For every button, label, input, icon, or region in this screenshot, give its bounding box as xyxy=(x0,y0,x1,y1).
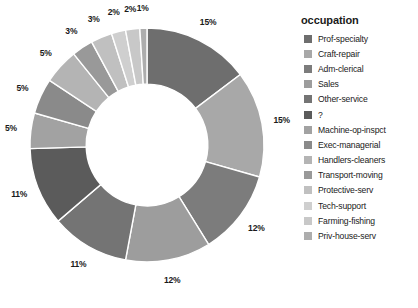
legend-item[interactable]: Handlers-cleaners xyxy=(301,153,418,168)
legend-color-swatch-icon xyxy=(304,65,312,73)
slice-percentage-label: 12% xyxy=(248,223,264,233)
legend-item-label: Adm-clerical xyxy=(318,64,363,74)
chart-plot-area: 15%15%12%12%11%11%5%5%5%3%3%2%2%1% xyxy=(0,0,290,308)
legend-item-label: ? xyxy=(318,110,323,120)
slice-percentage-label: 3% xyxy=(65,26,77,36)
slice-percentage-label: 5% xyxy=(40,48,52,58)
legend-color-swatch-icon xyxy=(304,50,312,58)
legend-item[interactable]: Prof-specialty xyxy=(301,31,418,46)
legend-color-swatch-icon xyxy=(304,171,312,179)
donut-chart-figure: 15%15%12%12%11%11%5%5%5%3%3%2%2%1% occup… xyxy=(0,0,418,308)
legend-item[interactable]: Farming-fishing xyxy=(301,213,418,228)
legend-item[interactable]: Protective-serv xyxy=(301,183,418,198)
slice-percentage-label: 2% xyxy=(108,7,120,17)
legend-item-label: Machine-op-inspct xyxy=(318,125,386,135)
legend-color-swatch-icon xyxy=(304,202,312,210)
legend-item-label: Tech-support xyxy=(318,201,366,211)
donut-svg xyxy=(0,0,290,308)
legend-item-label: Other-service xyxy=(318,94,368,104)
legend-item[interactable]: Machine-op-inspct xyxy=(301,122,418,137)
slice-percentage-label: 11% xyxy=(11,189,27,199)
slice-percentage-label: 15% xyxy=(200,17,216,27)
legend-item-label: Prof-specialty xyxy=(318,34,368,44)
legend-item-label: Transport-moving xyxy=(318,170,383,180)
legend-color-swatch-icon xyxy=(304,186,312,194)
legend-item-label: Protective-serv xyxy=(318,185,373,195)
legend-item-label: Craft-repair xyxy=(318,49,360,59)
legend-item[interactable]: Transport-moving xyxy=(301,168,418,183)
legend-color-swatch-icon xyxy=(304,95,312,103)
legend-color-swatch-icon xyxy=(304,35,312,43)
legend-item[interactable]: Craft-repair xyxy=(301,46,418,61)
legend-item[interactable]: ? xyxy=(301,107,418,122)
slice-percentage-label: 2% xyxy=(124,4,136,14)
legend-color-swatch-icon xyxy=(304,141,312,149)
legend-item[interactable]: Adm-clerical xyxy=(301,61,418,76)
slice-percentage-label: 5% xyxy=(17,83,29,93)
legend-item[interactable]: Other-service xyxy=(301,92,418,107)
legend-title: occupation xyxy=(301,14,418,26)
legend-color-swatch-icon xyxy=(304,156,312,164)
legend-color-swatch-icon xyxy=(304,80,312,88)
legend-color-swatch-icon xyxy=(304,232,312,240)
slice-percentage-label: 1% xyxy=(137,3,149,13)
legend-item[interactable]: Tech-support xyxy=(301,198,418,213)
legend-color-swatch-icon xyxy=(304,126,312,134)
legend-color-swatch-icon xyxy=(304,111,312,119)
slice-percentage-label: 5% xyxy=(5,123,17,133)
legend-item-label: Sales xyxy=(318,79,339,89)
legend-item[interactable]: Priv-house-serv xyxy=(301,228,418,243)
slice-percentage-label: 12% xyxy=(164,275,180,285)
legend-item-label: Handlers-cleaners xyxy=(318,155,385,165)
legend-item[interactable]: Exec-managerial xyxy=(301,137,418,152)
legend-item[interactable]: Sales xyxy=(301,77,418,92)
legend-item-label: Exec-managerial xyxy=(318,140,380,150)
legend-color-swatch-icon xyxy=(304,217,312,225)
slice-percentage-label: 11% xyxy=(71,259,87,269)
slice-percentage-label: 15% xyxy=(273,115,289,125)
legend: occupation Prof-specialtyCraft-repairAdm… xyxy=(301,14,418,244)
legend-item-list: Prof-specialtyCraft-repairAdm-clericalSa… xyxy=(301,31,418,244)
slice-percentage-label: 3% xyxy=(88,14,100,24)
legend-item-label: Priv-house-serv xyxy=(318,231,376,241)
legend-item-label: Farming-fishing xyxy=(318,216,375,226)
